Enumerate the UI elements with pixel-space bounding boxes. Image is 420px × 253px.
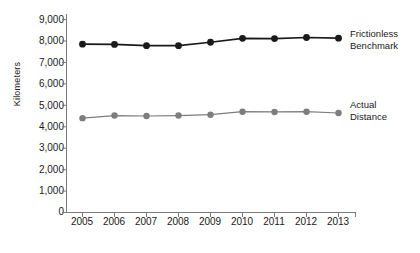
data-point-marker (207, 112, 213, 118)
data-point-marker (143, 42, 150, 49)
data-point-marker (175, 112, 181, 118)
series-label-line-1: Actual (350, 99, 387, 111)
data-point-marker (239, 109, 245, 115)
series-frictionless-benchmark (79, 34, 342, 49)
data-point-marker (271, 35, 278, 42)
data-point-marker (111, 41, 118, 48)
chart-container: Kilometers 9,000 8,000 7,000 6,000 5,000… (0, 0, 420, 253)
series-label-line-2: Benchmark (350, 40, 398, 52)
data-point-marker (143, 113, 149, 119)
series-actual-distance (79, 109, 341, 122)
data-point-marker (79, 41, 86, 48)
data-point-marker (303, 34, 310, 41)
series-label-line-2: Distance (350, 111, 387, 123)
data-point-marker (303, 109, 309, 115)
data-point-marker (175, 42, 182, 49)
data-point-marker (335, 35, 342, 42)
data-point-marker (207, 39, 214, 46)
data-point-marker (335, 110, 341, 116)
x-axis-ticks (83, 213, 356, 218)
data-point-marker (271, 109, 277, 115)
data-point-marker (79, 115, 85, 121)
data-series-layer (79, 34, 342, 121)
series-label-frictionless-benchmark: Frictionless Benchmark (350, 28, 398, 51)
y-axis-ticks (62, 20, 67, 213)
series-label-line-1: Frictionless (350, 28, 398, 40)
data-point-marker (239, 35, 246, 42)
series-label-actual-distance: Actual Distance (350, 99, 387, 122)
data-point-marker (111, 112, 117, 118)
